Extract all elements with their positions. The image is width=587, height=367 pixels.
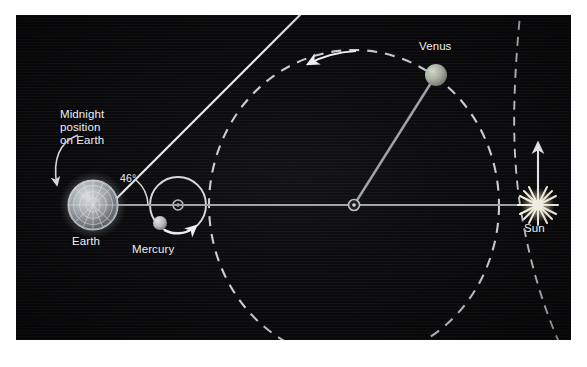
figure-canvas: Midnight position on Earth 46° Earth Mer… [0, 0, 587, 367]
mercury-body[interactable] [153, 216, 167, 230]
midnight-label-line2: position [60, 121, 100, 134]
venus-label: Venus [419, 40, 451, 53]
midnight-label-line1: Midnight [60, 108, 104, 121]
earth-orbit-arc [514, 15, 564, 340]
sun-label: Sun [524, 222, 545, 235]
elongation-angle-arc [136, 180, 148, 205]
venus-radius-line [354, 75, 436, 205]
elongation-angle-label: 46° [120, 172, 136, 185]
line-of-sight-to-venus [115, 15, 312, 200]
diagram-panel: Midnight position on Earth 46° Earth Mer… [16, 15, 571, 340]
earth-label: Earth [72, 235, 100, 248]
venus-orbit-center-dot [352, 203, 356, 207]
diagram-vector-layer [16, 15, 571, 340]
midnight-label-line3: on Earth [60, 134, 104, 147]
mercury-label: Mercury [132, 243, 174, 256]
venus-orbit-ellipse [209, 50, 499, 340]
venus-body[interactable] [425, 64, 447, 86]
venus-direction-arrow[interactable] [308, 51, 356, 64]
mercury-direction-arrow[interactable] [164, 226, 196, 233]
